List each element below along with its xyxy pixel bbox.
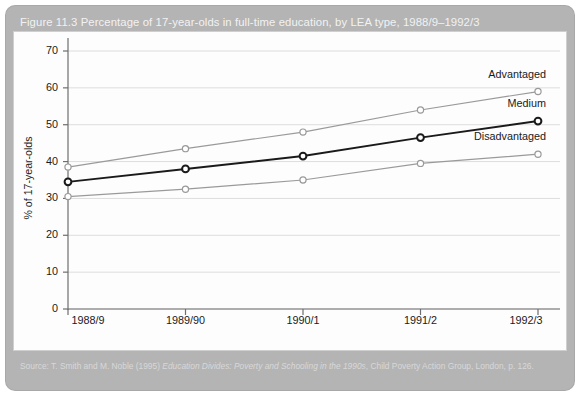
y-axis-tick-label: 0 — [30, 302, 58, 314]
series-label-advantaged: Advantaged — [378, 68, 546, 80]
x-axis-tick-label: 1992/3 — [481, 314, 571, 326]
line-chart-svg — [14, 32, 566, 350]
data-point-marker — [182, 166, 189, 173]
y-axis-tick-label: 60 — [30, 81, 58, 93]
data-point-marker — [65, 178, 72, 185]
data-point-marker — [182, 146, 188, 152]
figure-caption: Figure 11.3 Percentage of 17-year-olds i… — [20, 12, 560, 32]
source-title: Education Divides: Poverty and Schooling… — [162, 361, 365, 371]
chart-plot-area: 0102030405060701988/91989/901990/11991/2… — [14, 32, 566, 350]
source-suffix: , Child Poverty Action Group, London, p.… — [366, 361, 534, 371]
x-axis-tick-label: 1991/2 — [376, 314, 466, 326]
y-axis-tick-label: 70 — [30, 44, 58, 56]
y-axis-tick-label: 40 — [30, 155, 58, 167]
data-point-marker — [65, 164, 71, 170]
figure-panel: Figure 11.3 Percentage of 17-year-olds i… — [6, 6, 574, 390]
figure-source-note: Source: T. Smith and M. Noble (1995) Edu… — [20, 358, 565, 374]
y-axis-tick-label: 10 — [30, 265, 58, 277]
y-axis-tick-label: 20 — [30, 228, 58, 240]
data-point-marker — [182, 186, 188, 192]
y-axis-title: % of 17-year-olds — [22, 98, 34, 258]
data-point-marker — [300, 177, 306, 183]
data-point-marker — [535, 88, 541, 94]
data-point-marker — [300, 153, 307, 160]
series-label-disadvantaged: Disadvantaged — [378, 130, 546, 142]
x-axis-tick-label: 1988/9 — [43, 314, 133, 326]
series-line — [68, 154, 538, 196]
data-point-marker — [535, 151, 541, 157]
data-point-marker — [417, 160, 423, 166]
y-axis-tick-label: 30 — [30, 191, 58, 203]
x-axis-tick-label: 1989/90 — [141, 314, 231, 326]
y-axis-tick-label: 50 — [30, 118, 58, 130]
data-point-marker — [535, 118, 542, 125]
data-point-marker — [65, 193, 71, 199]
source-prefix: Source: T. Smith and M. Noble (1995) — [20, 361, 162, 371]
series-label-medium: Medium — [378, 97, 546, 109]
chart-card: 0102030405060701988/91989/901990/11991/2… — [14, 32, 566, 350]
data-point-marker — [300, 129, 306, 135]
x-axis-tick-label: 1990/1 — [258, 314, 348, 326]
